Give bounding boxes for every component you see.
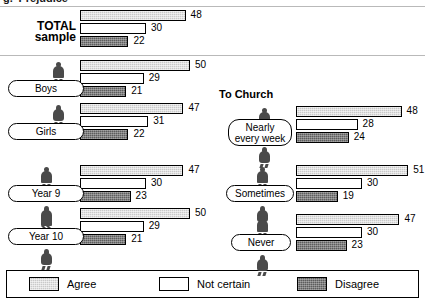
group-label-sometimes: Sometimes: [226, 185, 294, 202]
group-label-line: every week: [235, 133, 286, 144]
divider-top: [0, 6, 425, 7]
bar-boys-disagree: [80, 86, 126, 97]
bar-total-sample-agree: [80, 10, 186, 21]
bar-year-9-disagree: [80, 191, 131, 202]
legend-label-disagree: Disagree: [335, 278, 379, 290]
bar-sometimes-notcertain: [296, 178, 362, 189]
person-female-icon: [40, 249, 53, 270]
bar-value-year-10-notcertain: 29: [149, 220, 160, 232]
group-label-never: Never: [231, 234, 291, 251]
bar-value-girls-disagree: 22: [133, 128, 144, 140]
bar-nearly-every-week-notcertain: [296, 119, 358, 130]
bar-value-girls-notcertain: 31: [153, 115, 164, 127]
bar-value-year-9-agree: 47: [188, 164, 199, 176]
group-label-nearly-every-week: Nearlyevery week: [228, 119, 292, 146]
group-label-boys: Boys: [8, 80, 84, 97]
bar-value-total-sample-agree: 48: [191, 9, 202, 21]
bar-value-sometimes-notcertain: 30: [367, 177, 378, 189]
legend-label-agree: Agree: [67, 278, 96, 290]
bar-value-boys-agree: 50: [195, 59, 206, 71]
bar-total-sample-disagree: [80, 36, 128, 47]
bar-year-9-agree: [80, 165, 183, 176]
bar-year-9-notcertain: [80, 178, 146, 189]
section-title-to-church: To Church: [219, 88, 273, 100]
group-label-year-9: Year 9: [8, 185, 84, 202]
people-icons-never: [256, 216, 269, 294]
bar-value-total-sample-notcertain: 30: [151, 22, 162, 34]
bar-value-sometimes-disagree: 19: [343, 190, 354, 202]
bar-value-sometimes-agree: 51: [413, 164, 424, 176]
bar-value-never-disagree: 23: [352, 239, 363, 251]
group-label-total-sample: TOTALsample: [14, 18, 76, 46]
bar-value-nearly-every-week-agree: 48: [407, 105, 418, 117]
bar-boys-agree: [80, 60, 190, 71]
bar-value-never-agree: 47: [404, 213, 415, 225]
legend-swatch-notcertain: [159, 277, 189, 291]
chart-root: g. 'Prejudice' To Church TOTALsample4830…: [0, 0, 425, 303]
bar-year-10-agree: [80, 208, 190, 219]
bar-value-total-sample-disagree: 22: [133, 35, 144, 47]
people-icons-year-10: [40, 210, 53, 288]
bar-total-sample-notcertain: [80, 23, 146, 34]
bar-never-agree: [296, 214, 399, 225]
person-female-icon: [258, 147, 271, 168]
bar-value-boys-disagree: 21: [131, 85, 142, 97]
group-label-line: Girls: [36, 127, 57, 137]
cutoff-heading-text: g. 'Prejudice': [3, 0, 425, 4]
bar-year-10-notcertain: [80, 221, 144, 232]
bar-value-boys-notcertain: 29: [149, 72, 160, 84]
bar-boys-notcertain: [80, 73, 144, 84]
group-label-line: Nearly: [235, 122, 286, 133]
divider-total: [0, 55, 425, 56]
bar-sometimes-disagree: [296, 191, 338, 202]
bar-value-never-notcertain: 30: [367, 226, 378, 238]
bar-girls-disagree: [80, 129, 128, 140]
bar-value-nearly-every-week-disagree: 24: [354, 131, 365, 143]
bar-year-10-disagree: [80, 234, 126, 245]
group-label-line: Boys: [35, 84, 57, 94]
group-label-girls: Girls: [8, 123, 84, 140]
group-label-year-10: Year 10: [8, 228, 84, 245]
legend-item-notcertain: Not certain: [159, 277, 250, 291]
bar-nearly-every-week-disagree: [296, 132, 349, 143]
bar-never-notcertain: [296, 227, 362, 238]
group-label-line: Never: [248, 238, 275, 248]
bar-value-year-10-agree: 50: [195, 207, 206, 219]
cutoff-heading: g. 'Prejudice': [0, 0, 425, 5]
group-label-line: Sometimes: [235, 189, 285, 199]
bar-girls-agree: [80, 103, 183, 114]
bar-girls-notcertain: [80, 116, 148, 127]
legend-item-disagree: Disagree: [297, 277, 379, 291]
legend-label-notcertain: Not certain: [197, 278, 250, 290]
bar-value-year-9-notcertain: 30: [151, 177, 162, 189]
bar-value-year-9-disagree: 23: [136, 190, 147, 202]
legend-swatch-disagree: [297, 277, 327, 291]
bar-value-year-10-disagree: 21: [131, 233, 142, 245]
bar-sometimes-agree: [296, 165, 408, 176]
legend: AgreeNot certainDisagree: [6, 270, 419, 298]
bar-value-girls-agree: 47: [188, 102, 199, 114]
bar-value-nearly-every-week-notcertain: 28: [363, 118, 374, 130]
bar-nearly-every-week-agree: [296, 106, 402, 117]
group-label-line: Year 10: [29, 232, 63, 242]
group-label-line: sample: [35, 32, 76, 43]
person-female-icon: [256, 255, 269, 276]
bar-never-disagree: [296, 240, 347, 251]
group-label-line: Year 9: [32, 189, 61, 199]
